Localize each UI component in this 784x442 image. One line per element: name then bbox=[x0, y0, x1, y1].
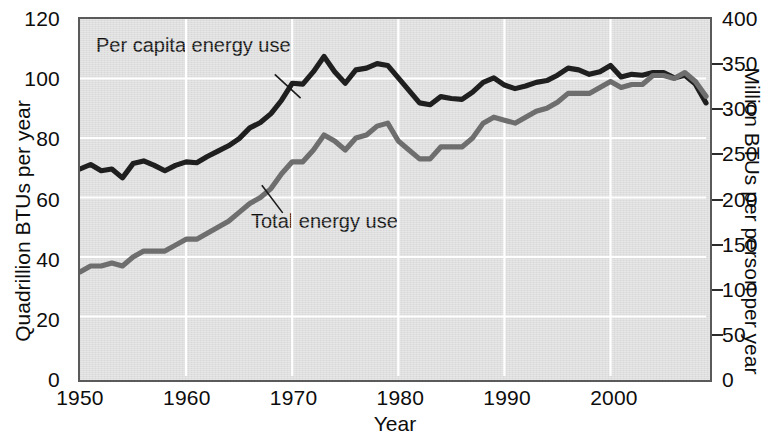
y-axis-left-tick-label: 120 bbox=[24, 7, 60, 31]
y-axis-right-tickmark bbox=[712, 153, 723, 155]
annotation-leader-lines bbox=[80, 19, 710, 380]
y-axis-left-tick-label: 20 bbox=[36, 308, 60, 332]
y-axis-left-tick-label: 80 bbox=[36, 127, 60, 151]
x-axis-tick-label: 1970 bbox=[270, 386, 318, 410]
leader-line-per-capita bbox=[275, 74, 301, 98]
y-axis-left-tick-label: 100 bbox=[24, 67, 60, 91]
y-axis-right-tick-label: 400 bbox=[722, 7, 758, 31]
x-axis-title: Year bbox=[78, 412, 712, 436]
x-axis-tick-label: 1980 bbox=[377, 386, 425, 410]
energy-use-chart: Quadrillion BTUs per year Million BTUs p… bbox=[0, 0, 784, 442]
y-axis-right-tick-label: 250 bbox=[722, 142, 758, 166]
x-axis-tick-label: 1950 bbox=[56, 386, 104, 410]
y-axis-right-tick-label: 50 bbox=[722, 323, 746, 347]
y-axis-right-tick-label: 350 bbox=[722, 52, 758, 76]
y-axis-right-tick-label: 200 bbox=[722, 188, 758, 212]
y-axis-right-tick-label: 100 bbox=[722, 278, 758, 302]
y-axis-left-tick-label: 40 bbox=[36, 248, 60, 272]
y-axis-right-tick-label: 150 bbox=[722, 233, 758, 257]
x-axis-tick-label: 1960 bbox=[163, 386, 211, 410]
x-axis-tick-label: 1990 bbox=[483, 386, 531, 410]
y-axis-right-title: Million BTUs per person per year bbox=[740, 39, 764, 404]
y-axis-right-tickmark bbox=[712, 199, 723, 201]
plot-area: Per capita energy use Total energy use bbox=[78, 17, 712, 382]
y-axis-right-tickmark bbox=[712, 108, 723, 110]
y-axis-right-tick-label: 300 bbox=[722, 97, 758, 121]
x-axis-tick-label: 2000 bbox=[590, 386, 638, 410]
y-axis-right-tickmark bbox=[712, 244, 723, 246]
y-axis-right-tick-label: 0 bbox=[722, 368, 734, 392]
y-axis-right-tickmark bbox=[712, 63, 723, 65]
y-axis-right-tickmark bbox=[712, 334, 723, 336]
y-axis-left-tick-label: 60 bbox=[36, 188, 60, 212]
leader-line-total bbox=[262, 185, 283, 213]
y-axis-right-tickmark bbox=[712, 289, 723, 291]
y-axis-left-title: Quadrillion BTUs per year bbox=[11, 39, 35, 404]
